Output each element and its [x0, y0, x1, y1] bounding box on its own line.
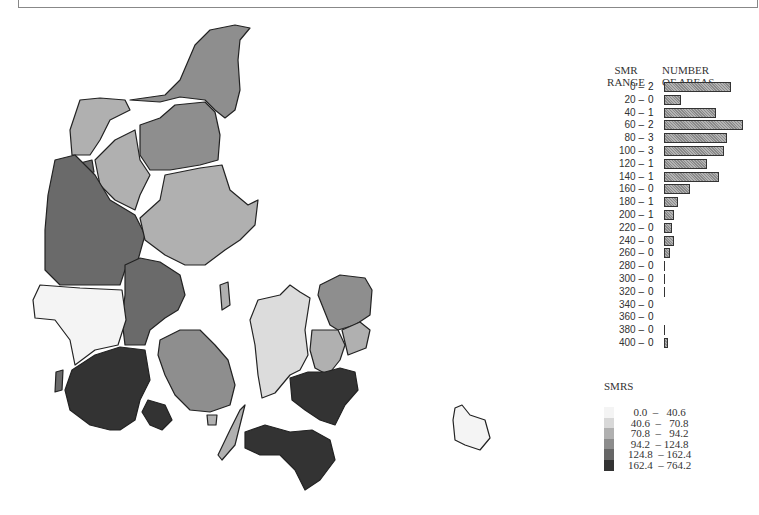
area-count: 0	[648, 183, 654, 194]
histogram-row: 300 – 0	[600, 273, 759, 285]
area-count: 1	[648, 107, 654, 118]
histogram-bar	[664, 274, 665, 284]
legend-swatch	[604, 439, 614, 450]
histogram-row: 40 – 1	[600, 107, 759, 119]
smr-range-label: 400 –	[619, 337, 644, 348]
area-count: 1	[648, 209, 654, 220]
histogram-bar	[664, 248, 670, 258]
histogram-bar	[664, 197, 678, 207]
smr-range-label: 0 –	[630, 81, 644, 92]
histogram-row: 20 – 0	[600, 94, 759, 106]
region-east-jutland[interactable]	[140, 165, 258, 265]
area-count: 0	[648, 273, 654, 284]
area-count: 0	[648, 324, 654, 335]
histogram-row: 400 – 0	[600, 337, 759, 349]
region-samso[interactable]	[220, 282, 230, 310]
smr-range-label: 340 –	[619, 299, 644, 310]
region-lolland-falster[interactable]	[245, 425, 335, 490]
legend-swatch	[604, 428, 614, 439]
histogram-bar	[664, 172, 719, 182]
legend-swatch	[604, 449, 614, 460]
smr-range-label: 80 –	[625, 132, 644, 143]
area-count: 0	[648, 337, 654, 348]
legend-range: 162.4 – 764.2	[628, 459, 728, 471]
region-langeland[interactable]	[218, 405, 245, 460]
histogram-bar	[664, 133, 727, 143]
legend-swatch	[604, 407, 614, 418]
histogram-row: 80 – 3	[600, 132, 759, 144]
histogram-bar	[664, 146, 724, 156]
histogram-row: 140 – 1	[600, 171, 759, 183]
histogram-row: 200 – 1	[600, 209, 759, 221]
histogram-bar	[664, 210, 674, 220]
area-count: 0	[648, 311, 654, 322]
smr-range-label: 20 –	[625, 94, 644, 105]
area-count: 2	[648, 81, 654, 92]
smr-range-label: 140 –	[619, 171, 644, 182]
smr-range-label: 180 –	[619, 196, 644, 207]
smr-range-label: 60 –	[625, 119, 644, 130]
area-count: 1	[648, 158, 654, 169]
histogram-row: 0 – 2	[600, 81, 759, 93]
legend: SMRS 0.0 – 40.6 40.6 – 70.8 70.8 – 94.2 …	[604, 380, 633, 392]
histogram-row: 280 – 0	[600, 260, 759, 272]
area-count: 0	[648, 286, 654, 297]
region-bornholm[interactable]	[453, 405, 490, 450]
area-count: 0	[648, 94, 654, 105]
area-count: 1	[648, 196, 654, 207]
area-count: 0	[648, 222, 654, 233]
region-storstrom[interactable]	[290, 368, 358, 425]
histogram-bar	[664, 338, 668, 348]
area-count: 3	[648, 132, 654, 143]
region-fano[interactable]	[55, 370, 63, 392]
smr-range-label: 120 –	[619, 158, 644, 169]
legend-swatch	[604, 418, 614, 429]
histogram-row: 180 – 1	[600, 196, 759, 208]
histogram-bar	[664, 261, 665, 271]
region-north-zealand[interactable]	[318, 275, 372, 330]
histogram-row: 360 – 0	[600, 311, 759, 323]
histogram-bar	[664, 223, 672, 233]
region-aero[interactable]	[207, 415, 217, 425]
area-count: 0	[648, 235, 654, 246]
region-funen[interactable]	[158, 330, 235, 412]
smr-range-label: 380 –	[619, 324, 644, 335]
area-count: 0	[648, 247, 654, 258]
smr-range-label: 40 –	[625, 107, 644, 118]
area-count: 2	[648, 119, 654, 130]
histogram-bar	[664, 159, 707, 169]
smr-range-label: 260 –	[619, 247, 644, 258]
histogram-bar	[664, 120, 743, 130]
histogram-row: 260 – 0	[600, 247, 759, 259]
legend-title: SMRS	[604, 380, 633, 392]
histogram-row: 120 – 1	[600, 158, 759, 170]
histogram-bar	[664, 108, 716, 118]
smr-range-label: 360 –	[619, 311, 644, 322]
legend-item: 162.4 – 764.2	[604, 460, 734, 471]
histogram-row: 100 – 3	[600, 145, 759, 157]
area-count: 1	[648, 171, 654, 182]
smr-range-label: 240 –	[619, 235, 644, 246]
legend-swatch	[604, 460, 614, 471]
smr-range-label: 220 –	[619, 222, 644, 233]
region-himmerland[interactable]	[140, 102, 220, 170]
histogram-row: 320 – 0	[600, 286, 759, 298]
histogram-bar	[664, 95, 681, 105]
smr-range-label: 160 –	[619, 183, 644, 194]
histogram-bar	[664, 236, 674, 246]
histogram-row: 340 – 0	[600, 299, 759, 311]
denmark-map	[0, 0, 560, 515]
smr-range-label: 280 –	[619, 260, 644, 271]
smr-range-label: 100 –	[619, 145, 644, 156]
area-count: 3	[648, 145, 654, 156]
area-count: 0	[648, 260, 654, 271]
area-count: 0	[648, 299, 654, 310]
histogram-bar	[664, 184, 690, 194]
histogram-bar	[664, 325, 665, 335]
histogram-row: 380 – 0	[600, 324, 759, 336]
histogram-bar	[664, 287, 665, 297]
histogram-row: 240 – 0	[600, 235, 759, 247]
smr-range-label: 320 –	[619, 286, 644, 297]
region-als[interactable]	[142, 400, 172, 430]
histogram-row: 160 – 0	[600, 183, 759, 195]
